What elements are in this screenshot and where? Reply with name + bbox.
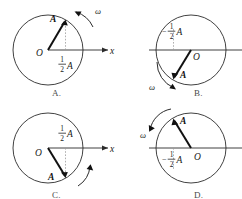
phasor-diagram-b: O A ω − 1 2 A	[121, 0, 242, 99]
projection-label-d: − 1 2 A	[162, 150, 183, 169]
phasor-diagram-c: O A x 1 2 A	[0, 100, 121, 199]
fraction-amplitude-a: A	[66, 61, 73, 71]
vector-b-arrowhead	[172, 73, 179, 80]
fraction-sign-b: −	[162, 27, 167, 36]
fraction-numerator-c: 1	[60, 124, 64, 133]
vector-label-c: A	[47, 172, 54, 182]
fraction-amplitude-b: A	[176, 27, 183, 37]
option-label-b: B.	[194, 88, 203, 98]
omega-label-d: ω	[140, 130, 146, 140]
phasor-diagram-a: O A x ω 1 2 A	[0, 0, 121, 99]
figure-root: … O A x ω 1 2 A	[0, 0, 242, 199]
option-label-a: A.	[52, 88, 61, 98]
axis-label-a: x	[109, 46, 115, 56]
omega-label-b: ω	[149, 82, 155, 92]
fraction-denominator-b: 2	[170, 32, 174, 41]
option-label-d: D.	[194, 190, 203, 199]
fraction-denominator-a: 2	[60, 65, 64, 74]
origin-label-a: O	[36, 48, 43, 58]
omega-arrowhead-b	[169, 84, 176, 90]
fraction-numerator-b: 1	[170, 22, 174, 31]
fraction-amplitude-c: A	[66, 129, 73, 139]
vector-d-arrowhead	[172, 119, 179, 126]
omega-arrowhead-c	[87, 164, 94, 170]
fraction-denominator-d: 2	[170, 160, 174, 169]
projection-label-c: 1 2 A	[58, 124, 73, 143]
projection-label-b: − 1 2 A	[162, 22, 183, 41]
fraction-denominator-c: 2	[60, 134, 64, 143]
fraction-amplitude-d: A	[176, 155, 183, 165]
vector-label-a: A	[49, 14, 56, 24]
x-axis-arrowhead-a	[102, 48, 108, 53]
option-label-c: C.	[52, 190, 61, 199]
omega-arrowhead-d	[149, 125, 155, 132]
vector-a-shaft	[48, 22, 65, 50]
origin-label-c: O	[35, 148, 42, 158]
phasor-diagram-d: O A ω − 1 2 A	[121, 100, 242, 199]
vector-c-shaft	[48, 148, 65, 175]
axis-label-c: x	[109, 144, 115, 154]
origin-label-d: O	[194, 152, 201, 162]
vector-label-b: A	[179, 70, 186, 80]
omega-arc-d	[150, 109, 171, 130]
projection-label-a: 1 2 A	[58, 55, 73, 74]
x-axis-arrowhead-c	[102, 146, 108, 151]
omega-label-a: ω	[95, 6, 101, 16]
fraction-numerator-d: 1	[170, 150, 174, 159]
fraction-numerator-a: 1	[60, 55, 64, 64]
origin-label-b: O	[193, 52, 200, 62]
vector-label-d: A	[179, 116, 186, 126]
fraction-sign-d: −	[162, 155, 167, 164]
